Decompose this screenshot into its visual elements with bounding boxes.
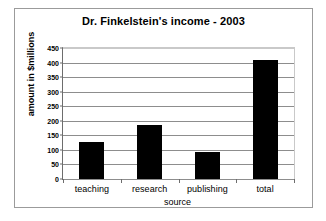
y-tick-mark <box>60 48 63 49</box>
x-tick-label-total: total <box>257 184 274 194</box>
x-tick-mark <box>294 179 295 183</box>
y-tick-label: 0 <box>55 176 59 183</box>
y-tick-mark <box>60 164 63 165</box>
y-tick-label: 150 <box>47 132 59 139</box>
y-tick-mark <box>60 91 63 92</box>
x-tick-label-publishing: publishing <box>187 184 228 194</box>
y-tick-label: 400 <box>47 59 59 66</box>
y-axis-title: amount in $millions <box>26 14 36 134</box>
y-tick-label: 450 <box>47 45 59 52</box>
y-tick-mark <box>60 62 63 63</box>
y-tick-label: 300 <box>47 88 59 95</box>
plot-area: 450400350300250200150100500teachingresea… <box>62 47 295 180</box>
x-axis-title: source <box>62 197 293 207</box>
y-tick-label: 50 <box>51 161 59 168</box>
x-tick-mark <box>236 179 237 183</box>
bar-total <box>253 60 278 179</box>
y-tick-mark <box>60 106 63 107</box>
bar-research <box>137 125 162 179</box>
y-tick-mark <box>60 77 63 78</box>
x-tick-label-research: research <box>132 184 167 194</box>
bar-publishing <box>195 152 220 179</box>
bar-teaching <box>79 142 104 179</box>
x-tick-mark <box>179 179 180 183</box>
y-tick-label: 200 <box>47 117 59 124</box>
y-tick-label: 350 <box>47 74 59 81</box>
x-tick-mark <box>121 179 122 183</box>
y-tick-mark <box>60 149 63 150</box>
y-tick-label: 100 <box>47 146 59 153</box>
x-tick-label-teaching: teaching <box>75 184 109 194</box>
y-tick-label: 250 <box>47 103 59 110</box>
chart-title: Dr. Finkelstein's income - 2003 <box>15 15 312 27</box>
y-tick-mark <box>60 120 63 121</box>
x-tick-mark <box>63 179 64 183</box>
gridline <box>63 48 294 49</box>
y-tick-mark <box>60 135 63 136</box>
chart-frame: Dr. Finkelstein's income - 2003 amount i… <box>14 8 313 208</box>
